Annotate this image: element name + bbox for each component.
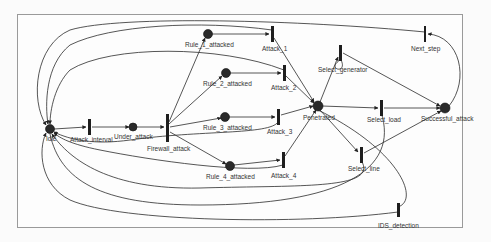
label-next-step: Next_step — [411, 45, 441, 53]
label-idle: Idle — [46, 135, 57, 142]
transition-select-load[interactable] — [380, 100, 383, 116]
diagram-canvas: Idle Attack_interval Under_attack Firewa… — [0, 0, 491, 242]
label-attack-3: Attack_3 — [267, 128, 293, 136]
label-firewall-attack: Firewall_attack — [147, 145, 191, 153]
label-attack-2: Attack_2 — [271, 84, 297, 92]
label-penetrated: Penetrated — [303, 114, 335, 121]
transition-next-step[interactable] — [424, 26, 426, 42]
label-rule-2-attacked: Rule_2_attacked — [203, 80, 252, 88]
place-rule-2-attacked[interactable] — [222, 69, 231, 78]
place-rule-3-attacked[interactable] — [221, 113, 230, 122]
label-rule-3-attacked: Rule_3_attacked — [203, 124, 252, 132]
label-attack-4: Attack_4 — [271, 172, 297, 180]
label-select-generator: Select_generator — [318, 66, 368, 74]
label-successful-attack: Successful_attack — [421, 115, 474, 123]
transition-attack-4[interactable] — [282, 152, 285, 168]
label-select-load: Select_load — [367, 116, 401, 124]
transition-attack-interval[interactable] — [88, 119, 91, 135]
label-rule-4-attacked: Rule_4_attacked — [206, 173, 255, 181]
transition-attack-3[interactable] — [277, 109, 280, 125]
transition-attack-2[interactable] — [283, 65, 286, 81]
transition-select-generator[interactable] — [339, 45, 342, 61]
label-rule-1-attacked: Rule_1_attacked — [185, 41, 234, 49]
place-idle[interactable] — [46, 125, 55, 134]
transition-firewall-attack[interactable] — [166, 114, 169, 142]
transition-attack-1[interactable] — [271, 26, 274, 42]
label-select-line: Select_line — [348, 165, 380, 173]
place-under-attack[interactable] — [129, 123, 137, 131]
transition-ids-detection[interactable] — [397, 203, 400, 217]
labels: Idle Attack_interval Under_attack Firewa… — [46, 41, 474, 230]
label-attack-interval: Attack_interval — [70, 136, 113, 144]
transition-select-line[interactable] — [360, 147, 363, 163]
label-under-attack: Under_attack — [114, 133, 153, 141]
place-rule-1-attacked[interactable] — [204, 30, 213, 39]
place-rule-4-attacked[interactable] — [226, 162, 235, 171]
petri-net: Idle Attack_interval Under_attack Firewa… — [0, 0, 491, 242]
label-attack-1: Attack_1 — [262, 45, 288, 53]
place-penetrated[interactable] — [313, 101, 323, 111]
place-successful-attack[interactable] — [440, 103, 450, 113]
label-ids-detection: IDS_detection — [378, 222, 419, 230]
places — [46, 30, 451, 171]
